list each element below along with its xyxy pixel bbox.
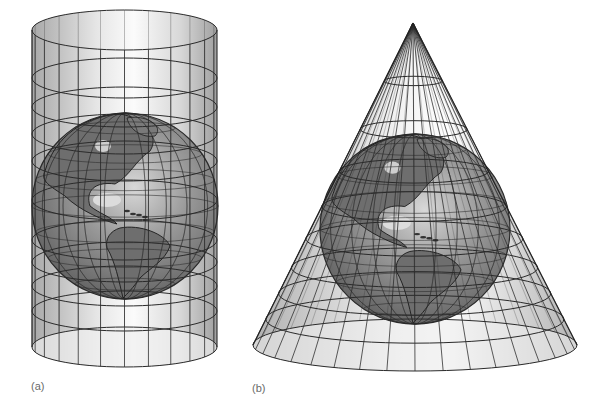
caribbean-island: [420, 236, 426, 238]
caribbean-island: [130, 213, 136, 215]
panel-label-a: (a): [31, 380, 44, 392]
projection-figure: [0, 0, 609, 414]
cylinder-projection-panel: [32, 10, 218, 367]
caribbean-island: [414, 233, 420, 235]
cone-projection-panel: [253, 23, 577, 371]
panel-label-b: (b): [252, 382, 265, 394]
caribbean-island: [136, 214, 142, 216]
